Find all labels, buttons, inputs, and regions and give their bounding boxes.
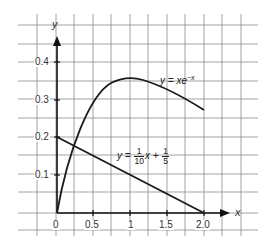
y-tick-label: 0.2 xyxy=(34,132,50,142)
annotation-linear: y = 110x + 15 xyxy=(117,147,170,166)
y-axis-arrow-icon xyxy=(53,36,61,46)
annotation-xe-neg-x: y = xe−x xyxy=(160,74,195,86)
x-tick-label: 0 xyxy=(52,220,60,230)
y-tick-label: 0.4 xyxy=(34,57,50,67)
x-tick-label: 2.0 xyxy=(195,220,211,230)
plot-area xyxy=(0,0,271,251)
fraction-one-fifth: 15 xyxy=(162,147,169,166)
fraction-one-tenth: 110 xyxy=(134,147,143,166)
x-axis-arrow-icon xyxy=(220,209,230,217)
x-tick-label: 1 xyxy=(127,220,135,230)
x-axis-label: x xyxy=(235,206,241,218)
y-tick-label: 0.1 xyxy=(34,170,50,180)
y-tick-label: 0.3 xyxy=(34,95,50,105)
series-xe-neg-x xyxy=(57,78,204,213)
x-tick-label: 1.5 xyxy=(158,220,174,230)
y-axis-label: y xyxy=(52,18,58,30)
x-tick-label: 0.5 xyxy=(84,220,100,230)
chart: y x 0.4 0.3 0.2 0.1 0 0.5 1 1.5 2.0 y = … xyxy=(0,0,271,251)
grid xyxy=(18,14,258,236)
